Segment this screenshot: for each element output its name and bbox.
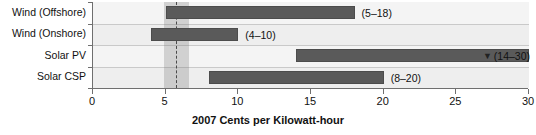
- x-tick-label-10: 10: [231, 96, 243, 107]
- range-text-solar-csp: (8–20): [391, 72, 421, 84]
- bar-solar-csp: [209, 71, 383, 84]
- bar-wind-offshore: [166, 6, 355, 19]
- x-tick-label-30: 30: [522, 96, 534, 107]
- range-text-wind-onshore: (4–10): [245, 29, 275, 41]
- row-separator-2: [93, 45, 529, 46]
- category-label-solar-csp: Solar CSP: [0, 71, 86, 82]
- x-tick-5: [165, 89, 166, 94]
- x-tick-label-20: 20: [377, 96, 389, 107]
- x-tick-label-5: 5: [162, 96, 168, 107]
- x-tick-20: [383, 89, 384, 94]
- y-tick-3: [88, 67, 93, 68]
- range-annotation-solar-csp: (8–20): [389, 73, 421, 84]
- row-separator-3: [93, 67, 529, 68]
- category-axis-labels: Wind (Offshore) Wind (Onshore) Solar PV …: [0, 0, 86, 88]
- y-tick-0: [88, 2, 93, 3]
- x-tick-25: [455, 89, 456, 94]
- x-tick-label-25: 25: [449, 96, 461, 107]
- range-annotation-wind-offshore: (5–18): [360, 8, 392, 19]
- range-text-solar-pv: (14–30): [494, 50, 530, 62]
- y-tick-1: [88, 24, 93, 25]
- row-separator-1: [93, 24, 529, 25]
- x-axis-title: 2007 Cents per Kilowatt-hour: [0, 115, 536, 126]
- x-tick-10: [237, 89, 238, 94]
- x-tick-0: [92, 89, 93, 94]
- range-text-wind-offshore: (5–18): [362, 7, 392, 19]
- plot-area: [92, 2, 529, 88]
- x-axis: 051015202530: [92, 88, 528, 89]
- category-label-wind-onshore: Wind (Onshore): [0, 28, 86, 39]
- range-annotation-solar-pv: ▼(14–30): [483, 51, 530, 62]
- x-tick-15: [310, 89, 311, 94]
- triangle-down-icon-solar-pv: ▼: [483, 52, 492, 61]
- x-tick-label-0: 0: [89, 96, 95, 107]
- x-tick-30: [528, 89, 529, 94]
- x-tick-label-15: 15: [304, 96, 316, 107]
- category-label-wind-offshore: Wind (Offshore): [0, 7, 86, 18]
- category-label-solar-pv: Solar PV: [0, 50, 86, 61]
- y-tick-2: [88, 45, 93, 46]
- horizontal-range-bar-chart: Wind (Offshore) Wind (Onshore) Solar PV …: [0, 0, 536, 135]
- range-annotation-wind-onshore: (4–10): [243, 30, 275, 41]
- bar-wind-onshore: [151, 28, 238, 41]
